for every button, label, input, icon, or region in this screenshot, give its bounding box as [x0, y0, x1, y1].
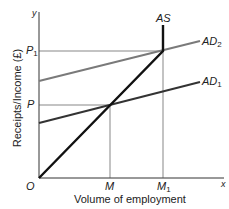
tick-p: P [27, 99, 34, 110]
as-label: AS [156, 13, 171, 24]
ad2-curve [39, 41, 200, 81]
diagram-canvas [0, 0, 229, 209]
ad2-label: AD2 [202, 36, 222, 49]
tick-m: M [105, 181, 114, 192]
y-axis-label: Receipts/Income (£) [11, 43, 23, 153]
x-axis-label: Volume of employment [74, 194, 186, 205]
origin-label: O [26, 181, 35, 192]
x-axis-symbol: x [221, 180, 226, 189]
tick-p1: P1 [26, 45, 38, 58]
ad1-label: AD1 [202, 76, 222, 89]
as-curve [39, 25, 163, 178]
y-axis-symbol: y [32, 9, 37, 18]
ad1-curve [39, 82, 200, 123]
